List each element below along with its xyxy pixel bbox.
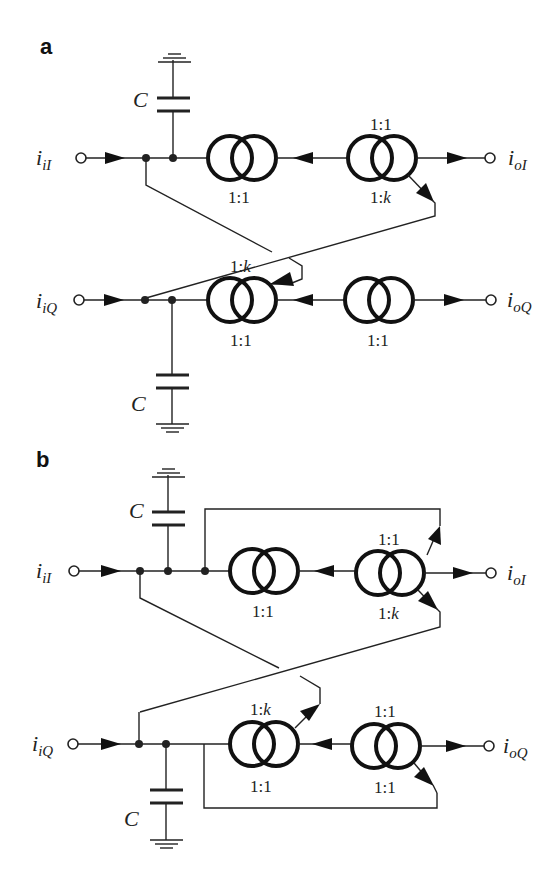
capacitor-label: C bbox=[129, 498, 144, 523]
ground-icon bbox=[150, 840, 183, 848]
input-label-iQ: iiQ bbox=[36, 288, 57, 316]
junction-node bbox=[135, 740, 143, 748]
current-arrow-icon bbox=[270, 272, 294, 286]
row-q-a: iiQ C 1:k 1:1 bbox=[36, 257, 532, 432]
current-arrow-icon bbox=[300, 704, 320, 721]
ratio-label: 1:k bbox=[250, 700, 271, 719]
current-arrow-icon bbox=[101, 565, 121, 577]
current-mirror-icon bbox=[208, 278, 276, 322]
current-arrow-icon bbox=[293, 294, 313, 306]
cross-wire bbox=[300, 676, 320, 704]
panel-a: a iiI C bbox=[36, 34, 532, 432]
capacitor-label: C bbox=[124, 806, 139, 831]
current-arrow-icon bbox=[446, 740, 466, 752]
input-label-iQ: iiQ bbox=[32, 731, 53, 759]
output-terminal-oQ bbox=[486, 295, 496, 305]
capacitor-icon bbox=[152, 475, 185, 571]
current-arrow-icon bbox=[444, 294, 464, 306]
ratio-label: 1:1 bbox=[370, 115, 392, 134]
current-mirror-icon bbox=[356, 551, 424, 595]
current-arrow-icon bbox=[428, 526, 441, 545]
ratio-label: 1:1 bbox=[250, 777, 272, 796]
output-terminal-oI bbox=[485, 153, 495, 163]
junction-node bbox=[141, 296, 149, 304]
ratio-label: 1:1 bbox=[252, 602, 274, 621]
ground-icon bbox=[156, 424, 189, 432]
ratio-label: 1:k bbox=[230, 257, 251, 276]
row-i-a: iiI C 1:1 bbox=[36, 54, 528, 298]
feedback-wire bbox=[204, 744, 437, 808]
current-arrow-icon bbox=[414, 767, 434, 786]
ratio-label: 1:1 bbox=[230, 331, 252, 350]
capacitor-label: C bbox=[131, 391, 146, 416]
current-arrow-icon bbox=[105, 152, 125, 164]
row-q-b: iiQ C bbox=[32, 676, 528, 848]
cross-wire bbox=[140, 608, 440, 712]
ratio-label: 1:1 bbox=[378, 530, 400, 549]
output-terminal-oI bbox=[486, 568, 496, 578]
capacitor-label: C bbox=[133, 87, 148, 112]
output-label-ioQ: ioQ bbox=[503, 733, 528, 761]
capacitor-icon bbox=[156, 300, 189, 424]
panel-b: b iiI C bbox=[32, 447, 528, 848]
current-mirror-icon bbox=[348, 136, 416, 180]
current-arrow-icon bbox=[453, 567, 473, 579]
current-arrow-icon bbox=[101, 738, 121, 750]
ratio-label: 1:1 bbox=[374, 778, 396, 797]
input-label-iI: iiI bbox=[36, 145, 52, 173]
input-terminal-iI bbox=[76, 153, 86, 163]
current-mirror-icon bbox=[230, 722, 298, 766]
output-label-ioI: ioI bbox=[508, 145, 528, 173]
current-arrow-icon bbox=[293, 152, 313, 164]
output-label-ioQ: ioQ bbox=[507, 287, 532, 315]
output-terminal-oQ bbox=[484, 741, 494, 751]
feedback-wire bbox=[205, 509, 440, 571]
ratio-label: 1:k bbox=[370, 188, 391, 207]
current-arrow-icon bbox=[312, 738, 332, 750]
input-label-iI: iiI bbox=[36, 558, 52, 586]
current-mirror-icon bbox=[208, 136, 276, 180]
cross-wire bbox=[146, 158, 272, 252]
row-i-b: iiI C bbox=[36, 469, 527, 712]
capacitor-icon bbox=[150, 744, 183, 840]
current-arrow-icon bbox=[104, 294, 124, 306]
current-arrow-icon bbox=[314, 565, 334, 577]
input-terminal-iQ bbox=[68, 739, 78, 749]
current-mirror-icon bbox=[230, 549, 298, 593]
current-mirror-icon bbox=[345, 278, 413, 322]
input-terminal-iQ bbox=[74, 295, 84, 305]
current-mirror-icon bbox=[352, 724, 420, 768]
ratio-label: 1:1 bbox=[228, 188, 250, 207]
current-arrow-icon bbox=[447, 152, 467, 164]
panel-label-a: a bbox=[40, 34, 53, 59]
panel-label-b: b bbox=[36, 447, 49, 472]
circuit-diagram: a iiI C bbox=[0, 0, 556, 893]
ratio-label: 1:1 bbox=[374, 702, 396, 721]
ratio-label: 1:k bbox=[378, 604, 399, 623]
input-terminal-iI bbox=[69, 566, 79, 576]
output-label-ioI: ioI bbox=[507, 560, 527, 588]
ground-icon bbox=[158, 54, 191, 62]
ratio-label: 1:1 bbox=[367, 331, 389, 350]
capacitor-icon bbox=[157, 60, 190, 158]
